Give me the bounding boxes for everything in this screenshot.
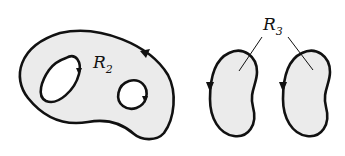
region-r2-hole-right xyxy=(118,80,146,108)
region-r3: R3 xyxy=(206,14,330,136)
region-diagram: R2 R3 xyxy=(0,0,345,156)
region-r3-right-bean xyxy=(283,51,330,136)
region-r3-left-bean xyxy=(210,51,257,136)
region-r3-label: R3 xyxy=(262,14,283,38)
region-r2: R2 xyxy=(20,31,174,139)
